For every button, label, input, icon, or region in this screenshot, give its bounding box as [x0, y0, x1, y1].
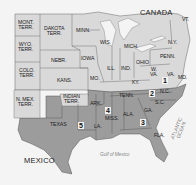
label-nebr: NEBR.: [51, 58, 66, 63]
label-mexico: MEXICO: [24, 158, 55, 163]
label-minn: MINN.: [76, 28, 90, 33]
label-la: LA.: [94, 124, 102, 129]
label-miss: MISS.: [105, 116, 119, 121]
label-kans: KANS.: [57, 78, 72, 83]
district-number-2: 2: [149, 90, 155, 97]
label-nc: N.C.: [160, 89, 170, 94]
label-penn: PENN.: [160, 54, 175, 59]
label-ny: N.Y.: [168, 40, 177, 45]
label-sc: S.C.: [155, 100, 165, 105]
label-ga: GA.: [144, 108, 153, 113]
label-mich: MICH.: [124, 44, 138, 49]
label-wyo: WYO. TERR.: [18, 42, 33, 53]
label-vt: VT.: [182, 17, 189, 22]
label-va: VA.: [167, 72, 175, 77]
label-canada: CANADA: [140, 10, 172, 15]
label-ala: ALA.: [123, 112, 134, 117]
label-ohio: OHIO: [136, 60, 149, 65]
district-number-1: 1: [162, 77, 168, 84]
label-iowa: IOWA: [81, 56, 94, 61]
label-mont: MONT. TERR.: [18, 20, 34, 31]
label-md: MD.: [178, 75, 187, 80]
reconstruction-districts-map: CANADA MEXICO Gulf of Mexico ATLANTIC OC…: [0, 0, 196, 185]
label-dakota: DAKOTA TERR.: [44, 26, 64, 37]
district-number-4: 4: [105, 107, 111, 114]
label-texas: TEXAS: [50, 122, 67, 127]
label-gulf-of-mexico: Gulf of Mexico: [100, 152, 129, 157]
label-fla: FLA.: [154, 133, 165, 138]
label-ind: IND.: [121, 66, 131, 71]
label-ark: ARK.: [90, 101, 102, 106]
label-tenn: TENN.: [119, 93, 134, 98]
label-nmex: N. MEX. TERR.: [16, 97, 35, 108]
label-indian: INDIAN TERR.: [63, 94, 80, 105]
label-mo: MO.: [90, 76, 100, 81]
label-ill: ILL.: [107, 66, 115, 71]
label-ky: KY.: [132, 80, 139, 85]
label-colo: COLO. TERR.: [19, 68, 35, 79]
district-number-5: 5: [78, 122, 84, 129]
district-number-3: 3: [140, 119, 146, 126]
label-wis: WIS.: [100, 40, 111, 45]
label-wva: W. VA.: [150, 67, 158, 78]
